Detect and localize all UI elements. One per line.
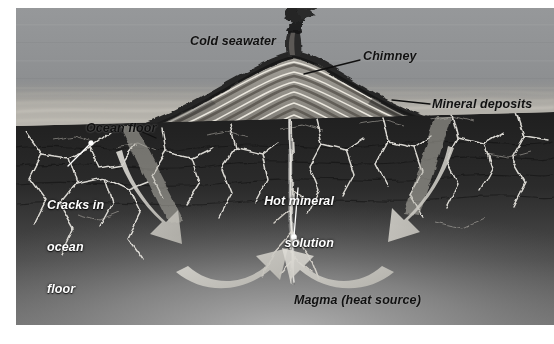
illustration-plate: Cold seawater Chimney Mineral deposits O… (16, 8, 554, 325)
label-magma-heat-source: Magma (heat source) (294, 293, 421, 307)
label-cracks-line-3: floor (47, 282, 104, 296)
label-mineral-deposits: Mineral deposits (432, 97, 532, 111)
label-hot-mineral-line-1: Hot mineral (234, 194, 334, 208)
label-chimney: Chimney (363, 49, 417, 63)
hydrothermal-vent-figure: Cold seawater Chimney Mineral deposits O… (0, 0, 554, 344)
label-cracks-line-2: ocean (47, 240, 104, 254)
label-cold-seawater: Cold seawater (190, 34, 276, 48)
label-cracks-line-1: Cracks in (47, 198, 104, 212)
label-cracks-in-ocean-floor: Cracks in ocean floor (47, 170, 104, 324)
label-ocean-floor: Ocean floor (86, 121, 157, 135)
label-hot-mineral-solution: Hot mineral solution (234, 166, 334, 278)
label-hot-mineral-line-2: solution (234, 236, 334, 250)
